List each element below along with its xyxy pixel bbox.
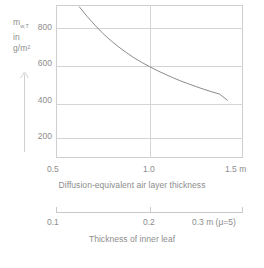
y-tick-label: 600 [28,59,52,68]
condensation-curve [56,5,243,158]
y-tick-label: 200 [28,132,52,141]
x-tick-label: 0.5 [47,164,59,174]
x-axis-primary-ticks: 0.5 1.0 1.5 m [40,164,264,178]
x-axis-primary-caption: Diffusion-equivalent air layer thickness [0,180,264,190]
secondary-axis-tick [150,207,151,213]
secondary-axis-tick [56,207,57,213]
x-tick-label: 1.5 m [225,164,246,174]
plot-area [56,5,243,158]
x-axis-secondary-ticks: 0.1 0.2 0.3 m (μ=5) [40,217,264,231]
x-tick-label-secondary: 0.2 [143,217,155,227]
x-tick-label-secondary: 0.3 m (μ=5) [192,217,236,227]
x-tick-label: 1.0 [143,164,155,174]
x-tick-label-secondary: 0.1 [47,217,59,227]
y-tick-label: 400 [28,96,52,105]
x-axis-secondary-caption: Thickness of inner leaf [0,234,264,244]
secondary-axis-tick [242,207,243,213]
y-tick-label: 800 [28,23,52,32]
figure-root: mw,T in g/m² 800 600 400 200 0.5 1.0 1.5… [0,0,264,268]
y-tick-labels: 800 600 400 200 [26,0,52,163]
